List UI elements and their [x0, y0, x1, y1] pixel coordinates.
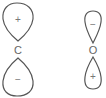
carbon-orbital: + C −: [3, 3, 33, 96]
oxygen-orbital: − O +: [85, 11, 101, 89]
oxygen-top-sign: −: [90, 19, 96, 30]
carbon-bottom-sign: −: [15, 74, 21, 85]
orbital-diagram: + C − − O +: [0, 0, 106, 98]
oxygen-label: O: [89, 44, 98, 56]
oxygen-bottom-sign: +: [90, 71, 96, 82]
carbon-top-sign: +: [15, 14, 21, 25]
carbon-label: C: [14, 44, 22, 56]
